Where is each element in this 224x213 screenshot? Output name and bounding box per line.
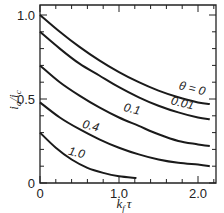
y-tick-label: 0 [28, 176, 35, 191]
curve-label: 0.1 [122, 100, 142, 118]
chart: 01.02.000.51.0 θ = 00.010.10.41.0 kfτ ia… [0, 0, 224, 213]
curve-line [40, 133, 136, 178]
curve-labels: θ = 00.010.10.41.0 [67, 78, 207, 161]
x-tick-label: 2.0 [189, 186, 207, 201]
curve-label: 0.01 [170, 93, 196, 112]
y-axis-title: ia/ic [6, 90, 23, 109]
x-tick-label: 0 [36, 186, 43, 201]
y-tick-label: 1.0 [17, 8, 35, 23]
